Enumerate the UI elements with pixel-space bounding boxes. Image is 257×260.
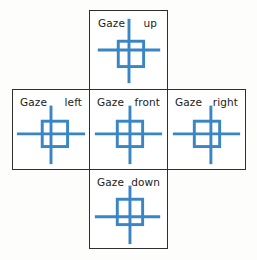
gaze-cell-down: Gaze down (89, 169, 168, 249)
eye-glyph-up (90, 11, 167, 89)
eye-glyph-down (90, 170, 167, 248)
eye-glyph-front (90, 90, 167, 169)
gaze-cell-left: Gaze left (12, 89, 90, 170)
gaze-cell-right: Gaze right (167, 89, 246, 170)
gaze-cell-up: Gaze up (89, 10, 168, 90)
gaze-cell-front: Gaze front (89, 89, 168, 170)
eye-glyph-right (168, 90, 245, 169)
eye-glyph-left (13, 90, 89, 169)
gaze-direction-diagram: Gaze up Gaze left Gaze front (0, 0, 257, 260)
